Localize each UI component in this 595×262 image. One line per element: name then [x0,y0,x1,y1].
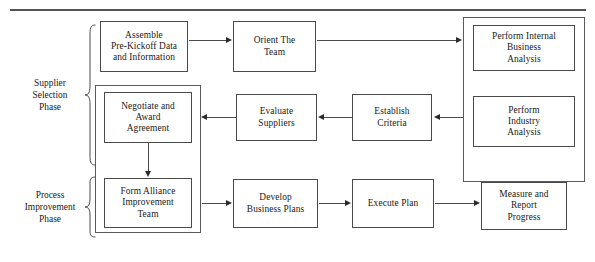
node-perform-industry-analysis-label: Perform Industry Analysis [507,105,541,138]
edge-orient-to-analysis-arrowhead [456,37,462,43]
edge-develop-to-execute-line [319,203,346,204]
edge-orient-to-analysis-line [317,40,457,41]
node-evaluate-suppliers[interactable]: Evaluate Suppliers [236,94,317,141]
node-execute-plan[interactable]: Execute Plan [352,179,434,228]
node-orient-the-team-label: Orient The Team [254,35,296,57]
node-assemble[interactable]: Assemble Pre-Kickoff Data and Informatio… [100,21,188,72]
edge-assemble-to-orient-line [189,40,227,41]
node-execute-plan-label: Execute Plan [368,198,418,209]
node-develop-business-plans[interactable]: Develop Business Plans [233,179,318,228]
node-perform-internal-business-analysis[interactable]: Perform Internal Business Analysis [473,25,575,71]
node-perform-internal-business-analysis-label: Perform Internal Business Analysis [492,31,556,64]
edge-analysis-to-establish-line [440,117,463,118]
edge-analysis-to-establish-arrowhead [434,114,440,120]
edge-execute-to-measure-arrowhead [474,200,480,206]
edge-negotiate-to-form-alliance-line [148,143,149,172]
node-form-alliance-improvement-team[interactable]: Form Alliance Improvement Team [104,178,192,228]
edge-establish-to-evaluate-arrowhead [318,114,324,120]
node-measure-and-report-progress-label: Measure and Report Progress [499,189,548,222]
node-perform-industry-analysis[interactable]: Perform Industry Analysis [473,96,575,147]
edge-establish-to-evaluate-line [324,117,352,118]
node-orient-the-team[interactable]: Orient The Team [233,21,316,72]
edge-assemble-to-orient-arrowhead [226,37,232,43]
phase-label-process-improvement: Process Improvement Phase [8,190,92,225]
node-form-alliance-improvement-team-label: Form Alliance Improvement Team [120,186,175,219]
node-evaluate-suppliers-label: Evaluate Suppliers [258,106,294,128]
top-divider-rule [10,9,586,11]
node-negotiate-and-award-agreement[interactable]: Negotiate and Award Agreement [104,92,192,143]
edge-negotiate-to-form-alliance-arrowhead [145,171,151,177]
flowchart-figure: Supplier Selection Phase Process Improve… [0,0,595,262]
node-assemble-label: Assemble Pre-Kickoff Data and Informatio… [111,30,177,63]
edge-evaluate-to-negotiate-arrowhead [201,114,207,120]
node-establish-criteria[interactable]: Establish Criteria [352,94,432,141]
node-develop-business-plans-label: Develop Business Plans [247,192,304,214]
edge-alliance-to-develop-line [202,203,227,204]
node-negotiate-and-award-agreement-label: Negotiate and Award Agreement [121,101,175,134]
node-establish-criteria-label: Establish Criteria [374,106,409,128]
edge-evaluate-to-negotiate-line [207,117,236,118]
edge-develop-to-execute-arrowhead [345,200,351,206]
node-measure-and-report-progress[interactable]: Measure and Report Progress [481,182,567,230]
edge-execute-to-measure-line [435,203,475,204]
edge-alliance-to-develop-arrowhead [226,200,232,206]
phase-label-supplier-selection: Supplier Selection Phase [14,78,86,113]
